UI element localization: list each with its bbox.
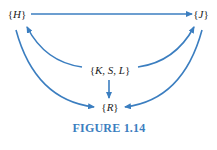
- edge-ksl-to-h: [27, 27, 82, 67]
- node-ksl: {K, S, L}: [90, 65, 131, 76]
- node-j: {J}: [193, 9, 208, 20]
- edge-j-to-r: [125, 30, 202, 107]
- edge-h-to-r: [16, 30, 94, 107]
- node-h: {H}: [8, 9, 27, 20]
- edge-ksl-to-j: [138, 27, 194, 67]
- node-r: {R}: [101, 102, 118, 113]
- figure-caption: FIGURE 1.14: [73, 121, 146, 136]
- figure-diagram: {H} {J} {K, S, L} {R} FIGURE 1.14: [0, 0, 217, 150]
